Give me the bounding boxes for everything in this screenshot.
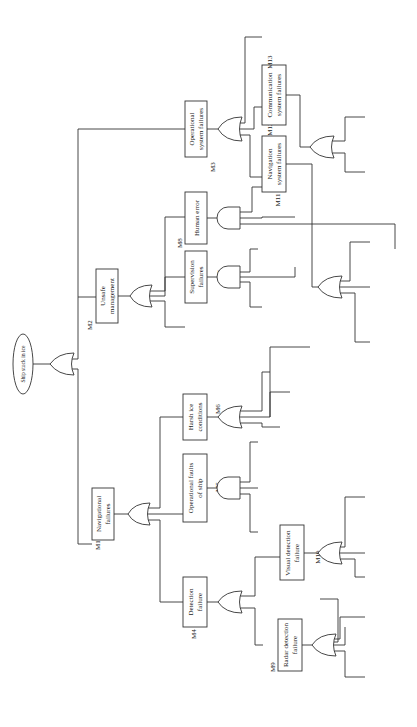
m3-label-2: system failures: [197, 108, 205, 150]
or-gate-m9: [312, 634, 336, 656]
or-gate-m11: [318, 276, 342, 298]
m5-label-2: of ship: [196, 478, 204, 498]
event-m4: M4 Detection failure: [183, 577, 207, 639]
event-m8: M8 Human error: [176, 192, 207, 248]
m3-label-1: Operational: [188, 112, 196, 145]
and-gate-m7: [217, 266, 240, 288]
m2-label-1: Unsafe: [99, 286, 107, 306]
event-m3: M3 Operational system failures: [185, 101, 217, 172]
m4-label-2: failure: [196, 593, 204, 611]
and-gate-m5: [217, 477, 240, 499]
m1-id: M1: [94, 540, 102, 550]
m11-label-1: Navigation: [266, 148, 274, 180]
m3-id: M3: [209, 162, 217, 172]
or-gate-m2: [130, 285, 152, 307]
m9-label-1: Radar detection: [282, 622, 290, 667]
m7-label-2: failures: [197, 266, 205, 287]
m12-label-1: Communication: [266, 72, 274, 118]
event-m13: M13: [266, 55, 274, 69]
m2-label-2: management: [108, 278, 116, 314]
or-gate-m1: [128, 503, 150, 525]
event-m10: M10 Visual detection failure: [280, 525, 322, 580]
top-event: Ship stuck in ice: [13, 334, 33, 394]
event-m9: M9 Radar detection failure: [269, 619, 302, 672]
m8-label-1: Human error: [193, 199, 201, 236]
event-m12: M12 Communication system failures: [262, 65, 286, 136]
or-gate-m4: [218, 591, 242, 613]
m2-id: M2: [86, 320, 94, 330]
or-gate-top: [50, 353, 74, 375]
m9-id: M9: [269, 662, 277, 672]
m6-id: M6: [214, 404, 222, 414]
m5-label-1: Operational faults: [187, 463, 195, 514]
m10-label-1: Visual detection: [284, 530, 292, 576]
event-m1: M1 Navigational failures: [92, 488, 114, 550]
m8-id: M8: [176, 238, 184, 248]
m10-label-2: failure: [293, 544, 301, 562]
top-event-label: Ship stuck in ice: [20, 345, 26, 383]
and-gate-m8: [217, 207, 240, 229]
m4-label-1: Detection: [187, 588, 195, 616]
m7-label-1: Supervision: [188, 260, 196, 294]
m11-id: M11: [274, 193, 282, 206]
m1-label-2: failures: [104, 503, 112, 524]
m11-label-2: system failures: [275, 143, 283, 185]
or-gate-m3: [218, 117, 242, 141]
or-gate-m12: [310, 136, 334, 158]
m6-label-1: Harsh ice: [187, 404, 195, 431]
event-m2: M2 Unsafe management: [86, 269, 118, 330]
m12-label-2: system failures: [275, 74, 283, 116]
fault-tree-canvas: Ship stuck in ice M1 Navigational failur…: [0, 0, 417, 727]
m13-id: M13: [266, 55, 274, 69]
m6-label-2: conditions: [196, 402, 204, 431]
m4-id: M4: [190, 629, 198, 639]
m1-label-1: Navigational: [95, 496, 103, 532]
event-m11: M11 Navigation system failures: [262, 136, 286, 206]
m9-label-2: failure: [291, 636, 299, 654]
fault-tree-diagram: Ship stuck in ice M1 Navigational failur…: [0, 0, 417, 727]
